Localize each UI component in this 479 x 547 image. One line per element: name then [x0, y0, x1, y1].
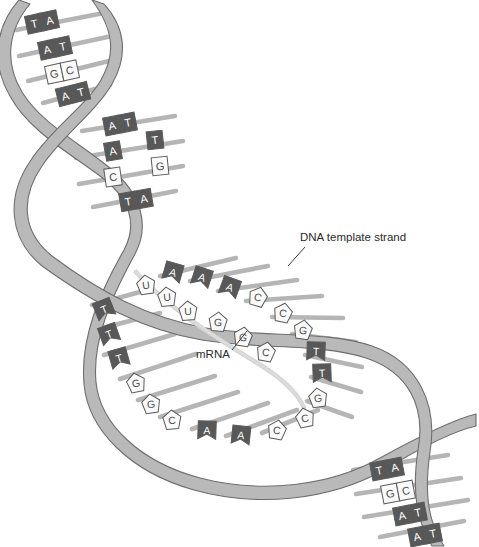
- base-letter: A: [203, 424, 210, 436]
- mrna-base: U: [178, 300, 197, 320]
- base-pairs-upper-middle-helix: A T A T C G T A: [103, 112, 169, 212]
- base-letter: A: [237, 429, 245, 442]
- base-letter: G: [146, 397, 156, 410]
- base-single-box: C: [104, 167, 122, 187]
- template-base: A: [198, 421, 217, 440]
- annotation-dna-template-strand: DNA template strand: [288, 231, 406, 266]
- base-letter: T: [319, 367, 326, 379]
- base-letter: G: [155, 160, 165, 173]
- base-pairs-top-helix: T A A T G C A T: [24, 10, 90, 107]
- base-letter: G: [298, 323, 308, 336]
- base-letter: U: [163, 291, 172, 304]
- dna-transcription-figure: T A A T G C A T A T: [0, 0, 479, 547]
- base-single-box: T: [146, 130, 164, 150]
- mrna-base: G: [208, 311, 227, 331]
- base-single-box: G: [151, 156, 169, 176]
- template-base: A: [231, 425, 251, 445]
- base-pair-box: A T: [103, 112, 138, 136]
- base-single-box: A: [104, 141, 123, 162]
- figure-canvas: T A A T G C A T A T: [0, 0, 479, 547]
- base-letter: G: [313, 391, 323, 404]
- mrna-label: mRNA: [196, 348, 230, 360]
- base-pair-box: G C: [44, 60, 79, 84]
- base-letter: U: [184, 305, 192, 318]
- dna-template-strand-label: DNA template strand: [300, 231, 406, 243]
- coding-base: A: [218, 275, 241, 298]
- base-pair-box: A T: [37, 36, 72, 60]
- mrna-base: U: [157, 286, 177, 307]
- base-letter: G: [214, 316, 223, 329]
- coding-base: C: [272, 301, 294, 323]
- base-pair-box: G C: [381, 480, 416, 504]
- base-letter: C: [168, 414, 177, 427]
- coding-base: A: [162, 261, 184, 283]
- base-letter: T: [313, 345, 320, 357]
- base-pair-box: T A: [24, 10, 59, 34]
- base-letter: C: [108, 170, 118, 183]
- coding-base: G: [308, 387, 328, 408]
